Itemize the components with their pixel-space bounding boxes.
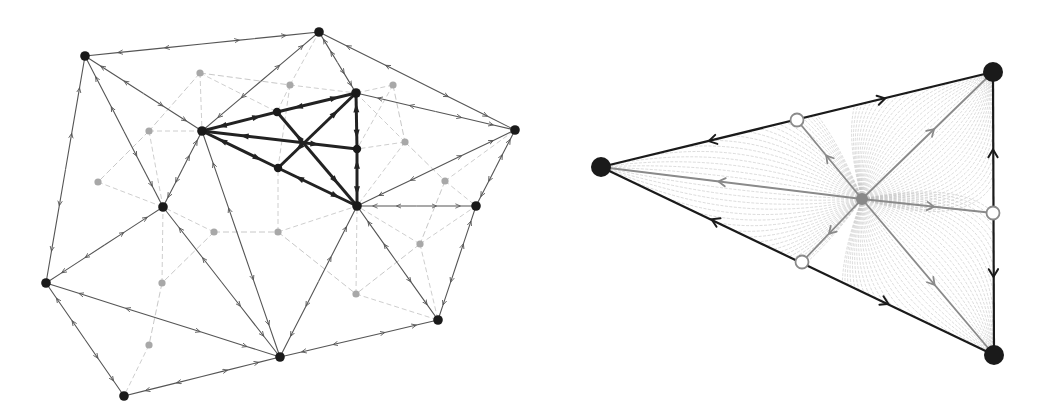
graph-edge bbox=[124, 132, 163, 208]
graph-edge bbox=[280, 339, 359, 358]
flow-line bbox=[850, 199, 994, 358]
flow-line bbox=[861, 70, 993, 199]
graph-edge bbox=[144, 94, 203, 132]
graph-edge bbox=[417, 81, 515, 130]
graph-node bbox=[41, 278, 51, 288]
saddle-point bbox=[987, 207, 1000, 220]
dual-edge bbox=[357, 142, 405, 206]
dual-edge bbox=[357, 142, 405, 149]
arrowhead-icon bbox=[218, 139, 227, 146]
graph-edge bbox=[46, 283, 163, 320]
flow-line bbox=[862, 72, 1002, 210]
dual-edge bbox=[290, 32, 319, 85]
graph-node bbox=[471, 201, 481, 211]
dual-node bbox=[274, 228, 281, 235]
flow-line bbox=[862, 198, 1001, 355]
graph-edge bbox=[163, 320, 280, 357]
dual-edge bbox=[445, 181, 476, 206]
graph-edge bbox=[124, 377, 202, 397]
graph-edge bbox=[46, 283, 85, 340]
graph-edge bbox=[163, 207, 222, 282]
graph-edge bbox=[436, 130, 515, 168]
triangulated-graph bbox=[0, 0, 530, 412]
flow-line bbox=[855, 199, 994, 356]
dual-edge bbox=[149, 131, 163, 207]
dual-node bbox=[352, 290, 359, 297]
graph-node bbox=[351, 88, 361, 98]
dual-edge bbox=[356, 206, 357, 294]
arrowhead-icon bbox=[353, 103, 359, 112]
graph-edges bbox=[46, 32, 515, 396]
separatrix bbox=[862, 72, 993, 199]
triangulated-graph-panel bbox=[0, 0, 530, 412]
flow-line bbox=[601, 167, 862, 249]
flow-lines bbox=[601, 59, 1014, 362]
dual-edge bbox=[290, 85, 356, 93]
dual-edge bbox=[356, 85, 393, 93]
graph-edge bbox=[202, 357, 280, 377]
graph-edge bbox=[183, 131, 203, 169]
dual-node bbox=[416, 240, 423, 247]
arrowhead-icon bbox=[295, 176, 304, 183]
dual-node bbox=[94, 178, 101, 185]
separatrix bbox=[797, 120, 862, 199]
flow-line bbox=[858, 67, 993, 199]
graph-edge bbox=[338, 63, 357, 94]
dual-edge bbox=[98, 131, 149, 182]
phase-portrait-panel bbox=[530, 0, 1043, 412]
flow-line bbox=[601, 167, 862, 215]
graph-node bbox=[119, 391, 129, 401]
dual-node bbox=[145, 127, 152, 134]
graph-edge bbox=[222, 282, 281, 357]
flow-line bbox=[601, 167, 862, 301]
arrowhead-icon bbox=[252, 115, 261, 121]
dual-node bbox=[158, 279, 165, 286]
dual-edge bbox=[420, 244, 438, 320]
graph-edge bbox=[46, 245, 105, 283]
graph-edge bbox=[496, 130, 516, 168]
arrowhead-icon bbox=[218, 122, 227, 128]
graph-node bbox=[197, 126, 207, 136]
dual-edge bbox=[445, 130, 515, 181]
graph-edge bbox=[85, 56, 124, 132]
dual-edge bbox=[149, 283, 162, 345]
dual-graph-edges bbox=[98, 32, 515, 396]
graph-edge bbox=[163, 169, 183, 207]
dual-node bbox=[401, 138, 408, 145]
graph-node bbox=[352, 201, 362, 211]
graph-edge bbox=[398, 263, 439, 320]
flow-line bbox=[862, 195, 1008, 355]
flow-line bbox=[862, 72, 995, 203]
graph-edge bbox=[438, 263, 457, 320]
graph-node bbox=[80, 51, 90, 61]
separatrix bbox=[862, 199, 994, 355]
graph-edge bbox=[85, 44, 202, 56]
graph-edge bbox=[357, 168, 436, 206]
dual-edge bbox=[200, 73, 202, 131]
dual-edge bbox=[357, 206, 420, 244]
graph-node bbox=[314, 27, 324, 37]
dual-edge bbox=[98, 182, 163, 207]
graph-node bbox=[510, 125, 520, 135]
stable-fixed-point bbox=[983, 62, 1003, 82]
dual-node bbox=[196, 69, 203, 76]
graph-edge bbox=[436, 112, 516, 131]
saddle-point bbox=[791, 114, 804, 127]
graph-node bbox=[353, 145, 361, 153]
dual-edge bbox=[200, 73, 277, 112]
dual-edge bbox=[356, 294, 438, 320]
graph-edge bbox=[280, 282, 319, 358]
graph-node bbox=[433, 315, 443, 325]
flow-line bbox=[862, 72, 997, 204]
arrowhead-icon bbox=[330, 191, 339, 198]
dual-node bbox=[441, 177, 448, 184]
graph-node bbox=[275, 352, 285, 362]
graph-edge bbox=[105, 207, 164, 245]
dual-edge bbox=[393, 85, 405, 142]
graph-edge bbox=[359, 320, 438, 339]
flow-line bbox=[601, 167, 862, 231]
graph-edge bbox=[357, 206, 398, 263]
dual-edge bbox=[420, 181, 445, 244]
stable-fixed-point bbox=[984, 345, 1004, 365]
graph-edge bbox=[46, 170, 66, 284]
